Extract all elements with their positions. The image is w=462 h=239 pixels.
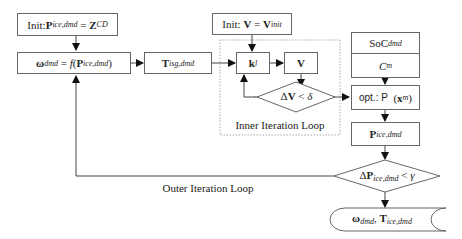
p-ice-box: Pice,dmd xyxy=(351,122,420,146)
opt-func: P xyxy=(381,92,388,103)
dv-delta: Δ xyxy=(281,90,288,102)
omega-sub: dmd xyxy=(44,59,58,68)
opt-close: ) xyxy=(408,92,412,104)
inner-loop-label: Inner Iteration Loop xyxy=(222,119,338,131)
output-var2: T xyxy=(379,212,386,224)
init-v-var: V xyxy=(243,18,251,30)
outer-loop-label: Outer Iteration Loop xyxy=(150,182,266,194)
dp-thr: γ xyxy=(410,169,414,181)
t-isg-var: T xyxy=(162,57,169,69)
dp-check-label: ΔPice,dmd < γ xyxy=(336,169,438,183)
omega-var: ω xyxy=(36,57,44,69)
init-v-val-sub: init xyxy=(271,20,282,29)
init-v-box: Init: V = Vinit xyxy=(212,13,292,35)
init-v-prefix: Init: xyxy=(222,18,243,30)
dv-thr: δ xyxy=(307,90,312,102)
opt-prefix: opt.: xyxy=(359,92,381,103)
opt-open: ( xyxy=(388,92,397,104)
opt-box: opt.: P (xm) xyxy=(351,85,420,110)
dv-check-label: ΔV < δ xyxy=(258,90,335,102)
dp-op: < xyxy=(398,169,410,181)
t-isg-sub: isg,dmd xyxy=(169,59,194,68)
output-var1: ω xyxy=(352,212,360,224)
output-sub2: ice,dmd xyxy=(387,217,412,226)
init-p-box: Init: Pice,dmd = ZCD xyxy=(17,13,118,36)
omega-close: ) xyxy=(108,57,112,69)
soc-var: SoC xyxy=(369,37,388,49)
init-p-val-sub: CD xyxy=(97,20,108,29)
omega-eq: = xyxy=(58,57,70,69)
v-box: V xyxy=(284,52,318,74)
cm-sub: m xyxy=(386,61,392,70)
v-var: V xyxy=(297,57,305,69)
dp-sub: ice,dmd xyxy=(373,174,398,183)
p-ice-var: P xyxy=(370,128,377,140)
init-p-prefix: Init: xyxy=(27,19,45,31)
t-isg-box: Tisg,dmd xyxy=(144,52,212,74)
init-p-eq: = xyxy=(78,19,90,31)
p-ice-sub: ice,dmd xyxy=(376,130,401,139)
omega-box: ωdmd = f(Pice,dmd) xyxy=(17,52,131,74)
dv-op: < xyxy=(296,90,308,102)
output-sub1: dmd xyxy=(360,217,374,226)
k-l-sub: l xyxy=(255,59,257,68)
soc-sub: dmd xyxy=(388,39,402,48)
init-p-var: P xyxy=(46,19,53,31)
omega-arg: P xyxy=(76,57,83,69)
init-v-eq: = xyxy=(251,18,263,30)
cm-var: C xyxy=(379,60,386,72)
output-label: ωdmd, Tice,dmd xyxy=(336,212,428,226)
init-v-val: V xyxy=(263,18,271,30)
dp-delta: Δ xyxy=(360,169,367,181)
init-p-sub: ice,dmd xyxy=(52,20,77,29)
init-p-val: Z xyxy=(89,19,96,31)
soc-box: SoCdmd xyxy=(351,32,420,54)
k-l-box: kl xyxy=(236,52,270,74)
cm-box: Cm xyxy=(351,53,420,78)
omega-arg-sub: ice,dmd xyxy=(83,59,108,68)
dv-var: V xyxy=(288,90,296,102)
